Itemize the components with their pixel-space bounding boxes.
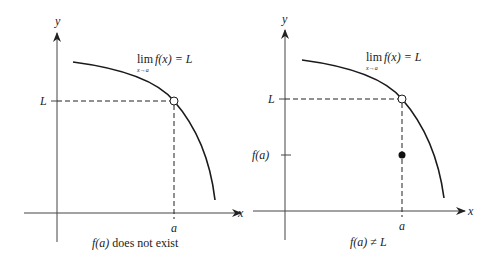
right-open-circle (398, 95, 406, 103)
right-lim-sub: x→a (365, 65, 378, 71)
right-fa-label: f(a) (252, 148, 269, 162)
left-open-circle (170, 97, 178, 105)
right-a-label: a (399, 219, 405, 233)
left-x-label: x (237, 206, 244, 220)
left-curve (73, 62, 215, 200)
left-graph: y x L a lim x→a f(x) = L f(a) does not e… (24, 14, 244, 250)
right-L-label: L (267, 92, 275, 106)
right-lim-text: lim (366, 50, 383, 64)
right-caption: f(a) ≠ L (350, 235, 387, 249)
left-lim-sub: x→a (136, 67, 149, 73)
right-graph: y x L f(a) a lim x→a f(x) = L f(a) ≠ L (252, 12, 474, 249)
left-y-label: y (54, 14, 61, 28)
right-x-label: x (467, 204, 474, 218)
limit-diagrams: y x L a lim x→a f(x) = L f(a) does not e… (0, 0, 489, 264)
left-lim-text: lim (137, 52, 154, 66)
right-filled-dot (399, 152, 406, 159)
right-y-label: y (281, 12, 288, 26)
right-lim-expr: f(x) = L (384, 50, 422, 64)
right-curve (302, 60, 444, 198)
left-L-label: L (39, 94, 47, 108)
left-a-label: a (171, 221, 177, 235)
left-caption: f(a) does not exist (92, 236, 179, 250)
left-lim-expr: f(x) = L (155, 52, 193, 66)
